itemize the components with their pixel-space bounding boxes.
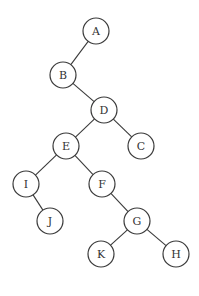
node-label: A: [91, 25, 101, 38]
node-label: G: [133, 215, 142, 228]
nodes-group: ABDECIFJGKH: [13, 18, 189, 267]
node-e: E: [53, 133, 79, 159]
node-label: J: [47, 215, 52, 228]
edge-f-g: [111, 193, 128, 211]
node-b: B: [50, 62, 76, 88]
edge-e-i: [35, 155, 56, 175]
node-label: K: [97, 248, 106, 261]
node-k: K: [88, 241, 114, 267]
edge-d-e: [75, 119, 94, 137]
node-j: J: [37, 208, 63, 234]
edge-g-k: [111, 230, 128, 245]
node-label: D: [100, 104, 109, 117]
node-label: H: [171, 248, 181, 261]
node-c: C: [128, 133, 154, 159]
node-a: A: [83, 18, 109, 44]
node-label: I: [24, 178, 28, 191]
edge-i-j: [33, 195, 43, 210]
edge-g-h: [147, 229, 166, 245]
node-d: D: [91, 97, 117, 123]
edge-d-c: [113, 119, 131, 137]
edge-b-d: [73, 83, 94, 101]
node-label: E: [62, 140, 70, 153]
node-f: F: [89, 171, 115, 197]
edge-e-f: [75, 155, 93, 174]
tree-diagram: ABDECIFJGKH: [0, 0, 199, 296]
node-label: C: [137, 140, 145, 153]
node-h: H: [163, 241, 189, 267]
node-label: F: [98, 178, 106, 191]
node-i: I: [13, 171, 39, 197]
edge-a-b: [71, 41, 88, 64]
node-label: B: [59, 69, 67, 82]
node-g: G: [124, 208, 150, 234]
